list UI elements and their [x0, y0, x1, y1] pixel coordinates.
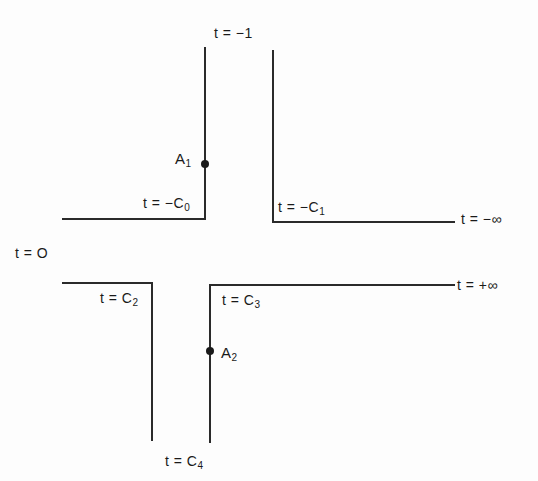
upper-right-boundary — [273, 50, 455, 222]
label-t-minus-one: t = −1 — [214, 25, 253, 41]
label-t-minus-one-text: t = −1 — [214, 25, 253, 41]
label-t-plus-infinity-text: t = +∞ — [457, 277, 498, 293]
label-t-minus-c0-subscript: 0 — [184, 202, 190, 213]
label-point-a2: A2 — [221, 345, 238, 366]
label-t-minus-c0: t = −C0 — [143, 195, 190, 216]
label-t-c4-subscript: 4 — [197, 460, 203, 471]
label-t-c3: t = C3 — [222, 292, 261, 313]
point-a1-subscript: 1 — [186, 158, 192, 169]
point-a2-text: A — [221, 344, 232, 361]
label-t-minus-infinity: t = −∞ — [461, 211, 502, 227]
diagram-canvas: t = −1 A1 t = −C0 t = −C1 t = −∞ t = O t… — [0, 0, 538, 481]
label-t-c3-text: t = C — [222, 292, 254, 308]
label-t-plus-infinity: t = +∞ — [457, 277, 498, 293]
label-t-zero: t = O — [15, 245, 48, 261]
label-t-minus-infinity-text: t = −∞ — [461, 211, 502, 227]
label-t-minus-c0-text: t = −C — [143, 195, 184, 211]
label-t-c2: t = C2 — [100, 290, 139, 311]
point-a2-subscript: 2 — [232, 352, 238, 363]
label-t-c4-text: t = C — [165, 453, 197, 469]
label-t-minus-c1-text: t = −C — [278, 199, 319, 215]
label-t-c2-text: t = C — [100, 290, 132, 306]
label-t-c4: t = C4 — [165, 453, 204, 474]
label-t-c2-subscript: 2 — [132, 297, 138, 308]
label-point-a1: A1 — [175, 151, 192, 172]
point-a2-marker — [206, 347, 214, 355]
label-t-c3-subscript: 3 — [254, 299, 260, 310]
label-t-minus-c1-subscript: 1 — [319, 206, 325, 217]
upper-left-boundary — [62, 47, 205, 219]
point-a1-text: A — [175, 150, 186, 167]
point-a1-marker — [201, 160, 209, 168]
channel-boundary-lines — [0, 0, 538, 481]
label-t-minus-c1: t = −C1 — [278, 199, 325, 220]
label-t-zero-text: t = O — [15, 245, 48, 261]
